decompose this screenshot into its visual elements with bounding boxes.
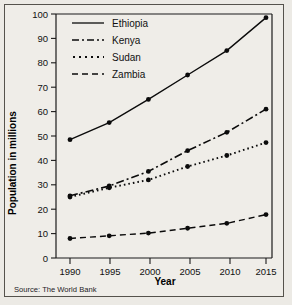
series-sudan — [68, 140, 269, 199]
data-point — [107, 233, 112, 238]
x-tick-label: 1995 — [99, 266, 120, 277]
x-axis-title: Year — [154, 276, 175, 287]
data-point — [224, 130, 229, 135]
source-note: Source: The World Bank — [14, 285, 97, 294]
series-kenya — [68, 107, 269, 198]
y-tick-label: 80 — [37, 57, 48, 68]
data-point — [224, 48, 229, 53]
data-point — [107, 185, 112, 190]
legend-item-ethiopia: Ethiopia — [72, 18, 149, 29]
line-chart: Population in millions Year 0 10 20 30 — [0, 0, 292, 305]
y-tick-label: 50 — [37, 131, 48, 142]
series-zambia — [68, 212, 269, 241]
legend-label: Ethiopia — [112, 18, 149, 29]
data-point — [146, 169, 151, 174]
data-point — [185, 164, 190, 169]
data-point — [107, 120, 112, 125]
data-point — [68, 195, 73, 200]
data-point — [264, 212, 269, 217]
y-tick-label: 40 — [37, 155, 48, 166]
data-point — [146, 178, 151, 183]
data-point — [224, 221, 229, 226]
series-line-kenya — [70, 109, 266, 196]
chart-svg: Population in millions Year 0 10 20 30 — [0, 0, 292, 305]
y-tick-label: 10 — [37, 228, 48, 239]
plot-axes — [56, 14, 272, 258]
chart-legend: Ethiopia Kenya Sudan Zambia — [72, 18, 149, 80]
legend-item-kenya: Kenya — [72, 35, 141, 46]
x-tick-label: 2000 — [139, 266, 160, 277]
data-point — [68, 236, 73, 241]
legend-item-zambia: Zambia — [72, 69, 146, 80]
legend-label: Sudan — [112, 52, 141, 63]
y-tick-label: 0 — [43, 253, 48, 264]
legend-label: Zambia — [112, 69, 146, 80]
series-ethiopia — [68, 15, 269, 142]
x-tick-label: 1990 — [59, 266, 80, 277]
y-axis-title: Population in millions — [7, 111, 18, 215]
figure-page: Population in millions Year 0 10 20 30 — [0, 0, 292, 305]
x-tick-label: 2015 — [255, 266, 276, 277]
series-line-ethiopia — [70, 18, 266, 140]
data-point — [264, 107, 269, 112]
x-tick-label: 2005 — [179, 266, 200, 277]
y-axis-ticks: 0 10 20 30 40 50 60 70 80 90 — [32, 9, 56, 264]
y-tick-label: 90 — [37, 33, 48, 44]
data-point — [185, 148, 190, 153]
data-point — [146, 231, 151, 236]
data-point — [68, 137, 73, 142]
data-point — [264, 15, 269, 20]
data-point — [185, 73, 190, 78]
y-tick-label: 100 — [32, 9, 48, 20]
legend-label: Kenya — [112, 35, 141, 46]
x-tick-label: 2010 — [219, 266, 240, 277]
data-point — [264, 140, 269, 145]
series-line-sudan — [70, 143, 266, 197]
x-axis-ticks: 1990 1995 2000 2005 2010 2015 — [59, 258, 276, 277]
y-tick-label: 30 — [37, 179, 48, 190]
y-tick-label: 60 — [37, 106, 48, 117]
data-series-layer — [68, 15, 269, 241]
series-line-zambia — [70, 215, 266, 239]
y-tick-label: 20 — [37, 204, 48, 215]
data-point — [224, 153, 229, 158]
data-point — [146, 97, 151, 102]
legend-item-sudan: Sudan — [73, 52, 141, 63]
y-tick-label: 70 — [37, 82, 48, 93]
data-point — [185, 226, 190, 231]
